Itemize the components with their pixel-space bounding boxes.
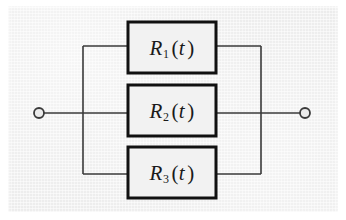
block-2-label: R2(t) <box>128 99 216 125</box>
block-3-symbol: R <box>150 161 163 185</box>
block-2-symbol: R <box>150 99 163 123</box>
block-3-label: R3(t) <box>128 161 216 187</box>
right-terminal-node <box>300 108 310 118</box>
block-2-open-paren: ( <box>172 99 179 123</box>
block-3-close-paren: ) <box>187 161 194 185</box>
block-2-subscript: 2 <box>163 110 169 124</box>
block-3-argument: t <box>179 161 185 185</box>
block-1-subscript: 1 <box>163 47 169 61</box>
block-1-open-paren: ( <box>172 36 179 60</box>
block-3-open-paren: ( <box>172 161 179 185</box>
block-1-argument: t <box>179 36 185 60</box>
reliability-block-diagram-figure: R1(t) R2(t) R3(t) <box>0 0 346 220</box>
block-1-label: R1(t) <box>128 36 216 62</box>
left-terminal-node <box>34 108 44 118</box>
block-2-argument: t <box>179 99 185 123</box>
block-1-close-paren: ) <box>187 36 194 60</box>
block-2-close-paren: ) <box>187 99 194 123</box>
block-3-subscript: 3 <box>163 172 169 186</box>
block-1-symbol: R <box>150 36 163 60</box>
